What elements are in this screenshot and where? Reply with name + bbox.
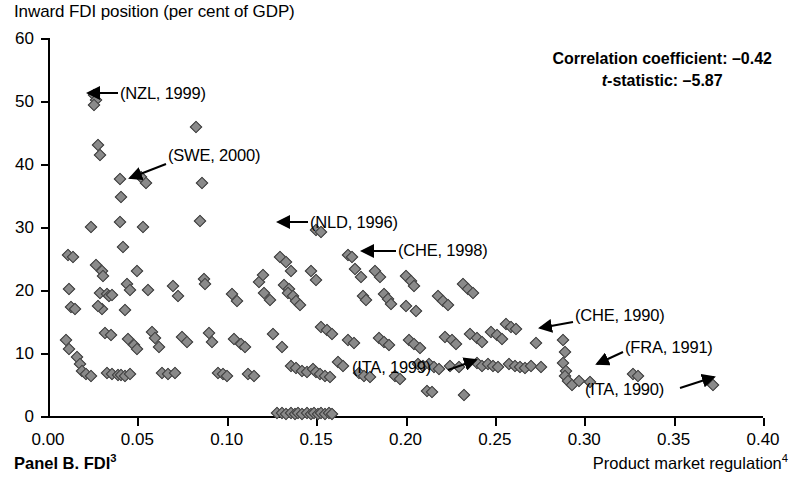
x-axis-tick-label: 0.35 [634, 430, 714, 450]
data-point-marker [190, 121, 203, 134]
x-axis-tick-label: 0.15 [276, 430, 356, 450]
data-point-marker [383, 339, 396, 352]
x-axis-tick-label: 0.10 [187, 430, 267, 450]
panel-label-superscript: 3 [110, 452, 116, 464]
y-axis-line [48, 38, 50, 418]
data-point-marker [172, 290, 185, 303]
x-axis-title-text: Product market regulation [593, 454, 782, 472]
x-axis-tick [227, 418, 229, 426]
data-point-marker [115, 190, 128, 203]
y-axis-tick [41, 38, 48, 40]
x-axis-tick [406, 418, 408, 426]
x-axis-tick [495, 418, 497, 426]
data-point-marker [453, 360, 466, 373]
data-point-marker [194, 214, 207, 227]
y-axis-tick-label: 40 [0, 155, 34, 175]
annotation-label: (CHE, 1990) [575, 306, 665, 325]
annotation-label: (SWE, 2000) [168, 146, 260, 165]
y-axis-tick [41, 227, 48, 229]
data-point-marker [267, 328, 280, 341]
data-point-marker [530, 337, 543, 350]
data-point-marker [93, 149, 106, 162]
y-axis-tick [41, 416, 48, 418]
data-point-marker [458, 388, 471, 401]
y-axis-tick-label: 10 [0, 344, 34, 364]
annotation-label: (CHE, 1998) [398, 241, 488, 260]
data-point-marker [118, 304, 131, 317]
annotation-label: (ITA, 1999) [352, 358, 431, 377]
y-axis-tick [41, 101, 48, 103]
data-point-marker [707, 378, 720, 391]
data-point-marker [85, 221, 98, 234]
annotation-label: (FRA, 1991) [625, 338, 713, 357]
panel-label: Panel B. FDI3 [14, 452, 117, 473]
data-point-marker [535, 360, 548, 373]
y-axis-tick-label: 30 [0, 218, 34, 238]
annotation-label: (NZL, 1999) [120, 84, 206, 103]
y-axis-tick-label: 0 [0, 407, 34, 427]
data-point-marker [63, 282, 76, 295]
data-point-marker [117, 241, 130, 254]
y-axis-tick [41, 290, 48, 292]
data-point-marker [131, 343, 144, 356]
data-point-marker [113, 173, 126, 186]
x-axis-tick-label: 0.00 [8, 430, 88, 450]
x-axis-tick [674, 418, 676, 426]
data-point-marker [408, 280, 421, 293]
annotation-arrow [540, 322, 573, 328]
data-point-marker [374, 271, 387, 284]
x-axis-tick-label: 0.05 [97, 430, 177, 450]
x-axis-tick [584, 418, 586, 426]
y-axis-tick-label: 60 [0, 29, 34, 49]
x-axis-tick [137, 418, 139, 426]
annotation-label: (ITA, 1990) [585, 380, 664, 399]
data-point-marker [113, 216, 126, 229]
data-point-marker [410, 305, 423, 318]
data-point-marker [195, 177, 208, 190]
x-axis-tick-label: 0.25 [455, 430, 535, 450]
plot-area: 01020304050600.000.050.100.150.200.250.3… [0, 0, 802, 482]
y-axis-tick-label: 20 [0, 281, 34, 301]
x-axis-tick-label: 0.40 [723, 430, 802, 450]
y-axis-tick [41, 164, 48, 166]
data-point-marker [136, 221, 149, 234]
data-point-marker [231, 295, 244, 308]
data-point-marker [556, 334, 569, 347]
data-point-marker [131, 265, 144, 278]
x-axis-title-superscript: 4 [782, 452, 788, 464]
x-axis-tick-label: 0.20 [366, 430, 446, 450]
data-point-marker [142, 284, 155, 297]
data-point-marker [558, 345, 571, 358]
fdi-scatter-figure: Inward FDI position (per cent of GDP) Co… [0, 0, 802, 482]
data-point-marker [276, 340, 289, 353]
x-axis-title: Product market regulation4 [593, 452, 788, 473]
x-axis-tick [763, 418, 765, 426]
y-axis-tick-label: 50 [0, 92, 34, 112]
x-axis-tick-label: 0.30 [544, 430, 624, 450]
annotation-arrow [597, 352, 623, 364]
annotation-label: (NLD, 1996) [310, 213, 398, 232]
panel-label-text: Panel B. FDI [14, 454, 110, 472]
y-axis-tick [41, 353, 48, 355]
